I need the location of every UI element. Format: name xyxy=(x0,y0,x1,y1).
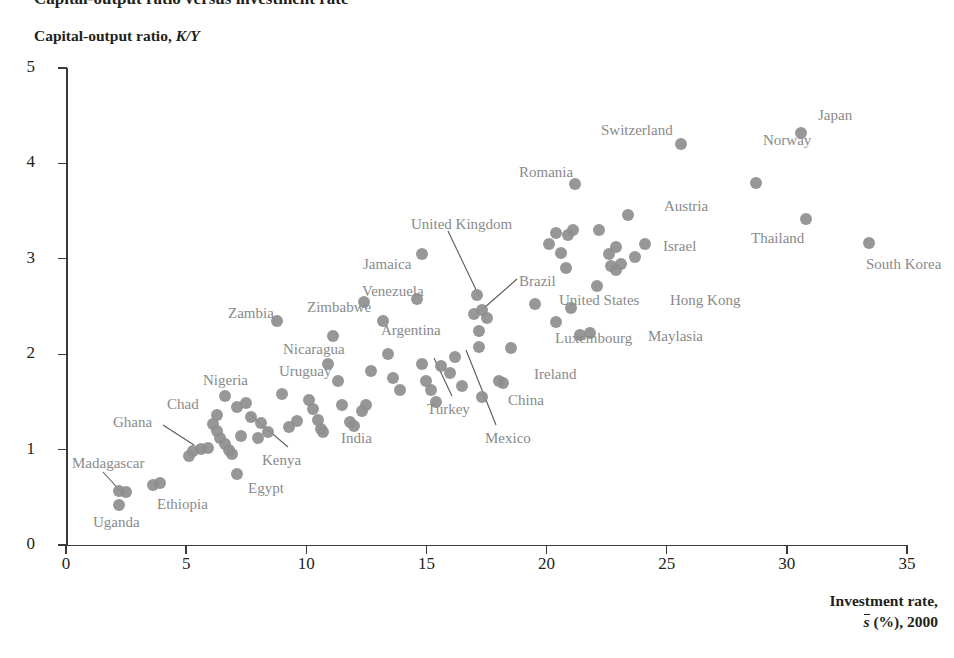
point-label-argentina: Argentina xyxy=(381,322,441,339)
point-label-ireland: Ireland xyxy=(534,366,576,383)
point-label-brazil: Brazil xyxy=(519,273,556,290)
point-label-uganda: Uganda xyxy=(93,514,140,531)
x-axis-label-rest: (%), 2000 xyxy=(870,613,938,630)
leader-ghana xyxy=(163,425,194,445)
point-label-switzerland: Switzerland xyxy=(601,122,673,139)
x-axis-label: Investment rate, s (%), 2000 xyxy=(830,591,938,633)
leader-brazil xyxy=(484,279,517,308)
leader-mexico xyxy=(466,350,496,425)
leader-madagascar xyxy=(103,472,123,494)
point-label-ghana: Ghana xyxy=(113,414,152,431)
point-label-ethiopia: Ethiopia xyxy=(157,496,208,513)
point-label-japan: Japan xyxy=(818,107,852,124)
point-label-chad: Chad xyxy=(167,396,199,413)
point-label-china: China xyxy=(508,392,544,409)
point-label-nicaragua: Nicaragua xyxy=(283,341,345,358)
point-label-jamaica: Jamaica xyxy=(363,256,411,273)
point-label-zimbabwe: Zimbabwe xyxy=(307,299,371,316)
point-label-madagascar: Madagascar xyxy=(72,455,144,472)
point-label-uruguay: Uruguay xyxy=(279,363,332,380)
point-label-united-states: United States xyxy=(559,292,639,309)
point-label-united-kingdom: United Kingdom xyxy=(411,216,512,233)
point-label-kenya: Kenya xyxy=(262,452,301,469)
point-label-egypt: Egypt xyxy=(248,480,284,497)
point-label-zambia: Zambia xyxy=(228,305,274,322)
x-axis-label-line1: Investment rate, xyxy=(830,592,938,609)
leader-lines xyxy=(0,0,954,658)
point-label-nigeria: Nigeria xyxy=(203,372,248,389)
point-label-mexico: Mexico xyxy=(485,430,531,447)
point-label-thailand: Thailand xyxy=(751,230,804,247)
point-label-hong-kong: Hong Kong xyxy=(670,292,740,309)
chart-figure: Capital-output ratio versus investment r… xyxy=(0,0,954,658)
leader-united-kingdom xyxy=(448,231,479,296)
point-label-turkey: Turkey xyxy=(427,401,470,418)
point-label-israel: Israel xyxy=(663,238,696,255)
x-axis-label-line2: s (%), 2000 xyxy=(830,612,938,633)
leader-kenya xyxy=(248,413,288,447)
leader-turkey xyxy=(434,358,452,396)
point-label-norway: Norway xyxy=(763,132,811,149)
point-label-romania: Romania xyxy=(519,164,573,181)
point-label-luxembourg: Luxembourg xyxy=(555,330,632,347)
point-label-venezuela: Venezuela xyxy=(362,283,424,300)
point-label-maylasia: Maylasia xyxy=(648,328,703,345)
point-label-austria: Austria xyxy=(664,198,708,215)
point-label-south-korea: South Korea xyxy=(866,256,941,273)
point-label-india: India xyxy=(341,430,372,447)
